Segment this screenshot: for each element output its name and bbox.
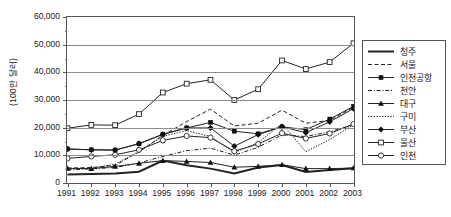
gridline <box>67 72 354 73</box>
y-tick-label: 60,000 <box>14 12 60 20</box>
plot-area <box>66 16 355 184</box>
legend-item-인천[interactable]: 인천 <box>366 149 442 162</box>
legend-label: 서울 <box>396 58 416 71</box>
legend-symbol <box>366 110 396 123</box>
data-point-marker <box>379 140 384 145</box>
legend-item-구미[interactable]: 구미 <box>366 110 442 123</box>
y-axis-tick <box>63 17 67 18</box>
legend: 청주서울인천공항천안대구구미부산울산인천 <box>362 40 446 165</box>
y-axis-tick <box>63 100 67 101</box>
x-axis-tick <box>306 183 307 187</box>
legend-label: 인천 <box>396 149 416 162</box>
y-tick-label: 0 <box>14 178 60 186</box>
x-axis-tick <box>330 183 331 187</box>
legend-symbol <box>366 45 396 58</box>
y-axis-minor-tick <box>65 86 67 87</box>
y-axis-minor-tick <box>65 31 67 32</box>
x-axis-tick <box>115 183 116 187</box>
y-tick-label: 40,000 <box>14 67 60 75</box>
legend-symbol <box>366 136 396 149</box>
y-axis-tick <box>63 128 67 129</box>
x-axis-tick <box>258 183 259 187</box>
y-axis-minor-tick <box>65 114 67 115</box>
y-axis-tick <box>63 183 67 184</box>
legend-symbol <box>366 84 396 97</box>
gridlines <box>67 17 354 183</box>
legend-symbol <box>366 97 396 110</box>
gridline <box>67 45 354 46</box>
y-axis-tick <box>63 72 67 73</box>
x-axis-tick-labels: 1991199219931994199519961997199819992000… <box>66 188 355 208</box>
legend-symbol <box>366 71 396 84</box>
legend-item-천안[interactable]: 천안 <box>366 84 442 97</box>
legend-item-대구[interactable]: 대구 <box>366 97 442 110</box>
x-tick-label: 2003 <box>338 188 368 198</box>
x-axis-tick <box>211 183 212 187</box>
x-axis-tick <box>139 183 140 187</box>
x-axis-tick <box>68 183 69 187</box>
legend-item-서울[interactable]: 서울 <box>366 58 442 71</box>
y-axis-tick-labels: 60,00050,00040,00030,00020,00010,0000 <box>8 0 60 217</box>
legend-label: 부산 <box>396 123 416 136</box>
legend-item-울산[interactable]: 울산 <box>366 136 442 149</box>
y-tick-label: 50,000 <box>14 40 60 48</box>
x-axis-tick <box>187 183 188 187</box>
chart-container: (100만 달러) 60,00050,00040,00030,00020,000… <box>0 0 451 217</box>
gridline <box>67 128 354 129</box>
x-axis-tick <box>282 183 283 187</box>
y-tick-label: 20,000 <box>14 123 60 131</box>
legend-label: 청주 <box>396 45 416 58</box>
y-axis-tick <box>63 155 67 156</box>
data-point-marker <box>378 153 383 158</box>
gridline <box>67 100 354 101</box>
x-axis-tick <box>163 183 164 187</box>
legend-item-청주[interactable]: 청주 <box>366 45 442 58</box>
y-axis-minor-tick <box>65 142 67 143</box>
legend-label: 울산 <box>396 136 416 149</box>
legend-symbol <box>366 123 396 136</box>
gridline <box>67 155 354 156</box>
legend-label: 대구 <box>396 97 416 110</box>
y-tick-label: 30,000 <box>14 95 60 103</box>
legend-item-부산[interactable]: 부산 <box>366 123 442 136</box>
data-point-marker <box>378 126 384 132</box>
x-axis-tick <box>354 183 355 187</box>
y-axis-tick <box>63 45 67 46</box>
data-point-marker <box>379 75 384 80</box>
y-tick-label: 10,000 <box>14 150 60 158</box>
legend-symbol <box>366 58 396 71</box>
y-axis-minor-tick <box>65 59 67 60</box>
x-axis-tick <box>234 183 235 187</box>
legend-symbol <box>366 149 396 162</box>
legend-label: 구미 <box>396 110 416 123</box>
legend-item-인천공항[interactable]: 인천공항 <box>366 71 442 84</box>
x-axis-tick <box>91 183 92 187</box>
legend-label: 인천공항 <box>396 71 432 84</box>
y-axis-minor-tick <box>65 169 67 170</box>
legend-label: 천안 <box>396 84 416 97</box>
